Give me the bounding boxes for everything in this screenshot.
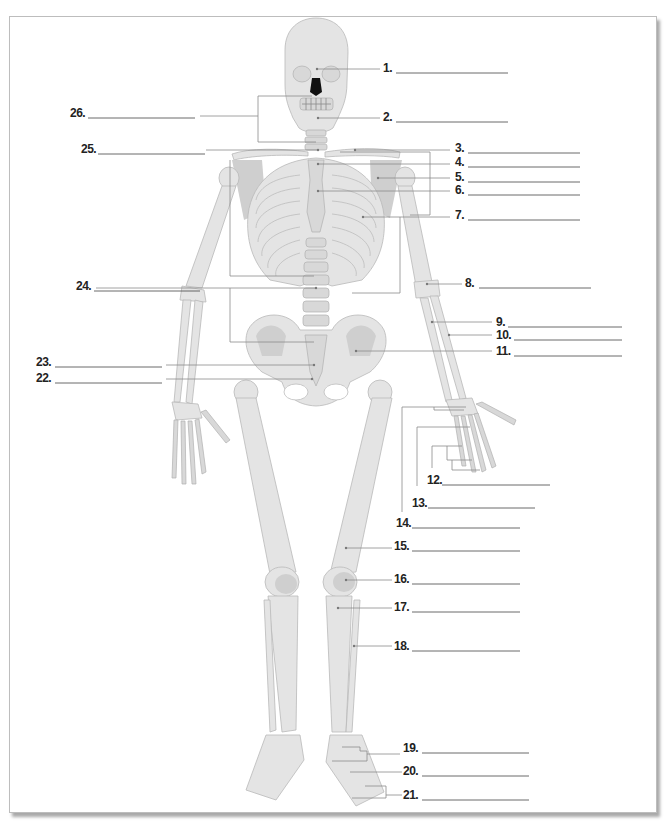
label-24[interactable]: 24. bbox=[76, 279, 200, 293]
label-number: 6. bbox=[455, 183, 464, 197]
clavicle-left bbox=[232, 149, 308, 160]
label-26[interactable]: 26. bbox=[70, 106, 195, 120]
label-17[interactable]: 17. bbox=[394, 600, 520, 614]
label-number: 9. bbox=[496, 315, 505, 329]
leg-left bbox=[234, 380, 304, 800]
label-number: 3. bbox=[455, 141, 464, 155]
label-number: 4. bbox=[455, 155, 464, 169]
label-11[interactable]: 11. bbox=[496, 344, 622, 358]
cervical-vertebrae bbox=[305, 130, 327, 150]
label-number: 21. bbox=[403, 788, 418, 802]
label-number: 17. bbox=[394, 600, 409, 614]
label-16[interactable]: 16. bbox=[394, 572, 520, 586]
label-number: 22. bbox=[36, 371, 51, 385]
label-number: 25. bbox=[81, 142, 96, 156]
label-13[interactable]: 13. bbox=[412, 496, 535, 510]
sternum bbox=[307, 160, 325, 232]
label-3[interactable]: 3. bbox=[455, 141, 580, 155]
label-2[interactable]: 2. bbox=[383, 110, 508, 124]
label-19[interactable]: 19. bbox=[403, 741, 529, 755]
label-5[interactable]: 5. bbox=[455, 170, 580, 184]
label-1[interactable]: 1. bbox=[383, 61, 508, 75]
label-number: 10. bbox=[496, 328, 511, 342]
label-22[interactable]: 22. bbox=[36, 371, 162, 385]
label-number: 16. bbox=[394, 572, 409, 586]
label-6[interactable]: 6. bbox=[455, 183, 580, 197]
label-25[interactable]: 25. bbox=[81, 142, 205, 156]
label-18[interactable]: 18. bbox=[394, 639, 520, 653]
label-9[interactable]: 9. bbox=[496, 315, 622, 329]
label-14[interactable]: 14. bbox=[396, 516, 520, 530]
label-number: 8. bbox=[465, 276, 474, 290]
label-number: 1. bbox=[383, 61, 392, 75]
label-15[interactable]: 15. bbox=[394, 539, 520, 553]
skeleton-illustration bbox=[172, 18, 516, 806]
skeleton-diagram: 1. 2. 3. 4. 5. 6. 7. 8. 9. 10. 11. 12. 1… bbox=[0, 0, 666, 824]
label-4[interactable]: 4. bbox=[455, 155, 580, 169]
label-number: 2. bbox=[383, 110, 392, 124]
label-number: 7. bbox=[455, 208, 464, 222]
label-number: 15. bbox=[394, 539, 409, 553]
label-23[interactable]: 23. bbox=[36, 355, 162, 369]
lumbar-vertebrae bbox=[303, 238, 329, 326]
label-7[interactable]: 7. bbox=[455, 208, 580, 222]
leg-right bbox=[323, 380, 392, 806]
label-number: 18. bbox=[394, 639, 409, 653]
label-20[interactable]: 20. bbox=[403, 764, 529, 778]
label-number: 11. bbox=[496, 344, 511, 358]
pelvis bbox=[246, 315, 386, 406]
label-number: 14. bbox=[396, 516, 411, 530]
label-number: 12. bbox=[427, 473, 442, 487]
label-10[interactable]: 10. bbox=[496, 328, 622, 342]
label-12[interactable]: 12. bbox=[427, 473, 550, 487]
skull bbox=[285, 18, 348, 133]
label-number: 19. bbox=[403, 741, 418, 755]
label-number: 5. bbox=[455, 170, 464, 184]
label-number: 26. bbox=[70, 106, 85, 120]
label-number: 24. bbox=[76, 279, 91, 293]
label-number: 20. bbox=[403, 764, 418, 778]
label-number: 13. bbox=[412, 496, 427, 510]
arm-left bbox=[172, 167, 239, 484]
label-21[interactable]: 21. bbox=[403, 788, 529, 802]
label-8[interactable]: 8. bbox=[465, 276, 591, 290]
label-number: 23. bbox=[36, 355, 51, 369]
